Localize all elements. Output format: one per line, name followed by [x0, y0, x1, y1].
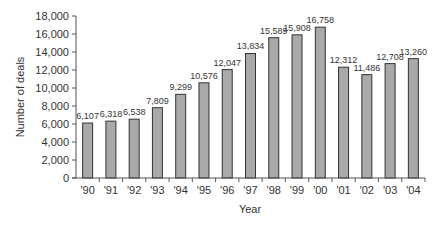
- x-tick-label: '02: [360, 184, 374, 196]
- bar-value-label: 10,576: [190, 71, 218, 81]
- y-axis-ticks: 02,0004,0006,0008,00010,00012,00014,0001…: [35, 10, 76, 184]
- y-tick-label: 4,000: [41, 136, 69, 148]
- bar: [83, 123, 93, 178]
- x-tick-label: '01: [336, 184, 350, 196]
- x-tick-label: '98: [267, 184, 281, 196]
- x-tick-label: '95: [197, 184, 211, 196]
- x-tick-label: '93: [150, 184, 164, 196]
- x-axis-label: Year: [239, 203, 262, 215]
- x-tick-label: '96: [220, 184, 234, 196]
- bar-value-label: 16,758: [307, 15, 335, 25]
- y-tick-label: 12,000: [35, 64, 69, 76]
- bar: [199, 83, 209, 178]
- y-tick-label: 0: [63, 172, 69, 184]
- bar: [408, 59, 418, 178]
- bar-value-label: 11,486: [353, 63, 380, 73]
- y-tick-label: 10,000: [35, 82, 69, 94]
- bar-value-label: 12,047: [213, 58, 241, 68]
- bar: [385, 64, 395, 178]
- bar-value-label: 6,107: [76, 111, 99, 121]
- x-tick-label: '91: [104, 184, 118, 196]
- bar: [176, 94, 186, 178]
- x-tick-label: '97: [243, 184, 257, 196]
- bar-value-label: 13,834: [237, 41, 265, 51]
- bar: [315, 27, 325, 178]
- bar: [292, 35, 302, 178]
- bar: [339, 67, 349, 178]
- bar-chart: 02,0004,0006,0008,00010,00012,00014,0001…: [0, 0, 440, 225]
- bar-value-label: 6,318: [100, 109, 123, 119]
- x-tick-label: '03: [383, 184, 397, 196]
- bar-value-label: 6,538: [123, 107, 146, 117]
- bar: [129, 119, 139, 178]
- bar: [222, 70, 232, 178]
- x-tick-label: '94: [174, 184, 188, 196]
- x-tick-label: '04: [406, 184, 420, 196]
- y-tick-label: 16,000: [35, 28, 69, 40]
- bars: 6,1076,3186,5387,8099,29910,57612,04713,…: [76, 15, 427, 178]
- y-tick-label: 8,000: [41, 100, 69, 112]
- x-tick-label: '99: [290, 184, 304, 196]
- x-tick-label: '90: [80, 184, 94, 196]
- y-axis-label: Number of deals: [14, 56, 26, 137]
- x-tick-label: '00: [313, 184, 327, 196]
- bar-value-label: 9,299: [169, 82, 192, 92]
- bar: [106, 121, 116, 178]
- bar: [152, 108, 162, 178]
- y-tick-label: 2,000: [41, 154, 69, 166]
- x-axis-ticks: '90'91'92'93'94'95'96'97'98'99'00'01'02'…: [80, 178, 425, 196]
- x-tick-label: '92: [127, 184, 141, 196]
- y-tick-label: 6,000: [41, 118, 69, 130]
- bar-value-label: 7,809: [146, 96, 169, 106]
- y-tick-label: 18,000: [35, 10, 69, 22]
- bar: [246, 53, 256, 178]
- bar: [362, 75, 372, 178]
- bar: [269, 38, 279, 178]
- y-tick-label: 14,000: [35, 46, 69, 58]
- bar-value-label: 13,260: [400, 47, 428, 57]
